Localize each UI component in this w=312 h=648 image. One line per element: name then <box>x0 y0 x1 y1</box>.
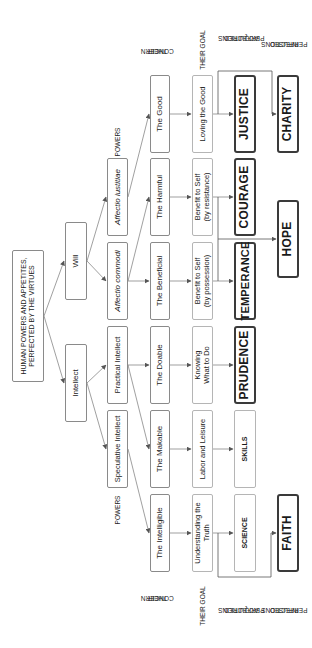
edge-iustitiae-good <box>128 114 149 197</box>
perfection-science: SCIENCE <box>234 494 256 572</box>
virtues-diagram: HUMAN POWERS AND APPETITES,PERFECTED BY … <box>0 0 312 648</box>
virtue-justice: JUSTICE <box>234 75 256 153</box>
virtue-faith: FAITH <box>277 494 299 572</box>
concern-beneficial: The Beneficial <box>150 242 170 320</box>
edge-root-will <box>44 261 64 316</box>
power-affectio-iustitiae: Affectio iustitiae <box>107 158 128 236</box>
goal-knowing-what-to-do: KnowingWhat to Do <box>192 326 213 404</box>
edge-speculative-intelligible <box>128 449 149 533</box>
will-node: Will <box>65 222 87 300</box>
virtue-temperance: TEMPERANCE <box>234 242 256 320</box>
virtue-prudence: PRUDENCE <box>234 326 256 404</box>
goal-benefit-resistance: Benefit to Self(by resistance) <box>192 158 213 236</box>
virtue-hope: HOPE <box>277 200 299 278</box>
edge-root-intellect <box>44 316 64 383</box>
concern-makable: The Makable <box>150 410 170 488</box>
power-affectio-commodi: Affectio commodi <box>107 242 128 320</box>
concern-intelligible: The Intelligible <box>150 494 170 572</box>
goal-labor-leisure: Labor and Leisure <box>192 410 213 488</box>
edge-intellect-speculative <box>87 383 106 449</box>
goal-benefit-possession: Benefit to Self(by possession) <box>192 242 213 320</box>
edge-will-commodi <box>87 261 106 281</box>
goal-loving-good: Loving the Good <box>192 75 213 153</box>
edge-intellect-practical <box>87 365 106 383</box>
intellect-node: Intellect <box>65 344 87 422</box>
root-node: HUMAN POWERS AND APPETITES,PERFECTED BY … <box>12 250 44 382</box>
edge-practical-makable <box>128 365 149 449</box>
goal-understanding-truth: Understanding theTruth <box>192 494 213 572</box>
edge-will-iustitiae <box>87 197 106 261</box>
power-speculative-intellect: Speculative Intellect <box>107 410 128 488</box>
perfection-skills: SKILLS <box>234 410 256 488</box>
concern-good: The Good <box>150 75 170 153</box>
concern-harmful: The Harmful <box>150 158 170 236</box>
concern-doable: The Doable <box>150 326 170 404</box>
power-practical-intellect: Practical Intellect <box>107 326 128 404</box>
virtue-charity: CHARITY <box>277 75 299 153</box>
edge-commodi-harmful <box>128 197 149 281</box>
virtue-courage: COURAGE <box>234 158 256 236</box>
